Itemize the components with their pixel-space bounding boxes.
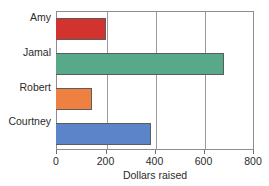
bar-row: Robert	[57, 82, 253, 117]
x-tick-label-0: 0	[36, 156, 76, 167]
x-tick-mark-200	[106, 150, 107, 154]
plot-area: Amy Jamal Robert Courtn	[56, 11, 254, 150]
y-axis-category-jamal: Jamal	[1, 47, 57, 58]
bar-row: Courtney	[57, 116, 253, 151]
x-tick-label-200: 200	[86, 156, 126, 167]
x-tick-mark-600	[204, 150, 205, 154]
bar-jamal	[56, 53, 224, 75]
bar-robert	[56, 88, 92, 110]
x-tick-label-400: 400	[135, 156, 175, 167]
x-tick-mark-400	[155, 150, 156, 154]
bar-courtney	[56, 123, 151, 145]
bar-row: Amy	[57, 12, 253, 47]
x-tick-label-800: 800	[233, 156, 269, 167]
x-axis-title: Dollars raised	[56, 170, 254, 181]
bar-chart-figure: Amy Jamal Robert Courtn	[0, 0, 269, 186]
y-axis-category-amy: Amy	[1, 12, 57, 23]
y-axis-category-robert: Robert	[1, 82, 57, 93]
bar-row: Jamal	[57, 47, 253, 82]
x-tick-label-600: 600	[184, 156, 224, 167]
y-axis-category-courtney: Courtney	[1, 116, 57, 127]
bar-amy	[56, 18, 106, 40]
bars-layer: Amy Jamal Robert Courtn	[57, 12, 253, 149]
x-tick-mark-0	[56, 150, 57, 154]
x-tick-mark-800	[253, 150, 254, 154]
